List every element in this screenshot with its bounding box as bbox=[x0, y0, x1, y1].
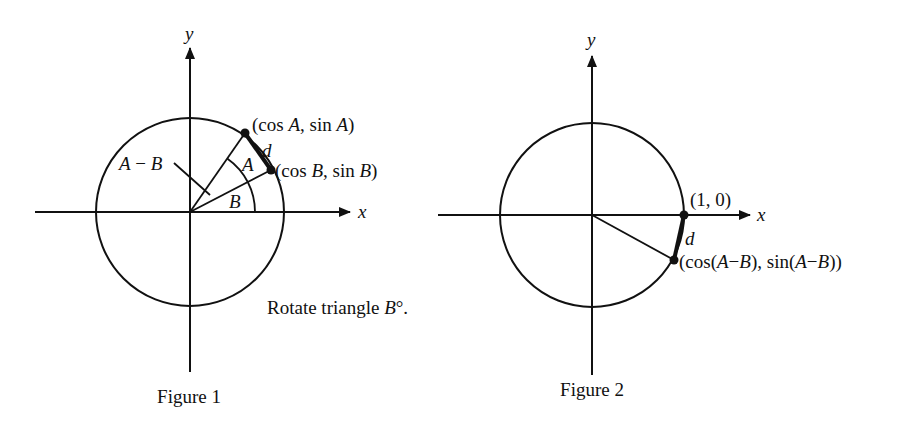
figure1-chord-label: d bbox=[262, 140, 272, 161]
figure2-caption: Figure 2 bbox=[560, 379, 624, 400]
figure2-x-label: x bbox=[756, 204, 766, 225]
figure1-angle-b-label: B bbox=[229, 191, 241, 212]
figure1-y-label: y bbox=[183, 23, 194, 44]
figure2-point-one-zero bbox=[680, 211, 689, 220]
figure1-x-label: x bbox=[357, 201, 367, 222]
figure1-difference-leader bbox=[174, 163, 210, 195]
figure-2: x y (1, 0) d (cos(A−B), sin(A−B)) Figure… bbox=[438, 29, 842, 400]
figure2-point-diff bbox=[670, 256, 679, 265]
figure2-point-one-label: (1, 0) bbox=[690, 189, 731, 211]
figure2-radius bbox=[592, 215, 674, 260]
figure2-chord-label: d bbox=[685, 228, 695, 249]
unit-circle-diagrams: x y (cos A, sin A) (cos B, sin B) d A B … bbox=[0, 0, 916, 422]
figure1-point-a bbox=[241, 129, 250, 138]
figure-1: x y (cos A, sin A) (cos B, sin B) d A B … bbox=[35, 23, 408, 407]
rotate-note: Rotate triangle B°. bbox=[267, 297, 408, 318]
figure2-y-label: y bbox=[585, 29, 596, 50]
figure1-point-a-label: (cos A, sin A) bbox=[252, 114, 354, 136]
figure2-point-diff-label: (cos(A−B), sin(A−B)) bbox=[679, 251, 842, 273]
figure1-point-b-label: (cos B, sin B) bbox=[275, 160, 377, 182]
figure1-difference-label: A − B bbox=[117, 153, 163, 174]
figure1-caption: Figure 1 bbox=[157, 386, 221, 407]
figure1-angle-a-label: A bbox=[240, 154, 254, 175]
